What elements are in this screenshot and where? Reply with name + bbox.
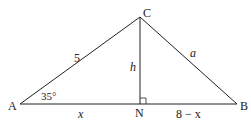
side-CB [140,17,237,104]
side-AC-label: 5 [74,51,80,65]
segment-AN-label: x [77,107,84,121]
side-CB-label: a [190,46,196,60]
angle-A-label: 35° [41,90,56,102]
vertex-label-B: B [240,99,248,113]
triangle-diagram: A C B N 5 a h 35° x 8 − x [0,0,251,121]
altitude-label: h [130,60,136,74]
vertex-label-C: C [143,6,151,20]
segment-NB-label: 8 − x [176,107,201,121]
point-label-N: N [135,106,144,120]
side-AC [20,17,140,104]
right-angle-marker [140,98,146,104]
vertex-label-A: A [8,99,17,113]
